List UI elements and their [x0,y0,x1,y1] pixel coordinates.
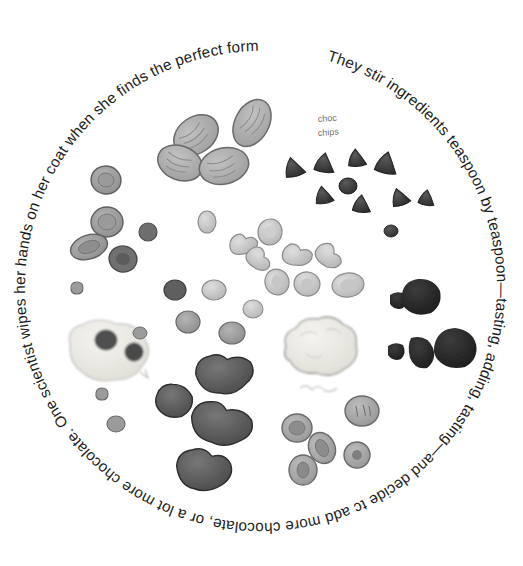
speck [139,223,157,241]
circular-ingredient-illustration: choc chips They stir ingredients teaspoo… [0,0,523,566]
illustration-canvas: choc chips They stir ingredients teaspoo… [0,0,523,566]
choc-chips-label-line2: chips [317,127,339,138]
ingredient-cream-blob-center [285,317,357,392]
ingredient-group-dark-chunks-bottom [153,350,256,493]
ingredient-group-oat-flakes-left [67,164,157,276]
ingredient-group-round-pieces-bottom-right [282,396,379,485]
ingredient-group-nuts [152,93,278,190]
choc-chips-label-line1: choc [317,113,337,124]
handwritten-label-choc-chips: choc chips [317,113,339,138]
ingredient-group-dark-chunks-right [388,279,477,368]
ingredient-group-choc-chips [282,148,437,237]
